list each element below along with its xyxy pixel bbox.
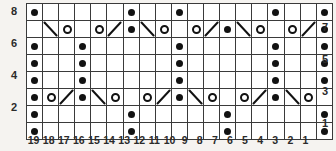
stitch-cell-r7-c17[interactable] (59, 21, 75, 38)
stitch-cell-r8-c11[interactable] (155, 4, 171, 21)
stitch-cell-r4-c7[interactable] (220, 72, 236, 89)
stitch-cell-r2-c16[interactable] (75, 106, 91, 123)
stitch-cell-r2-c18[interactable] (43, 106, 59, 123)
stitch-cell-r4-c4[interactable] (268, 72, 284, 89)
stitch-cell-r7-c14[interactable] (107, 21, 123, 38)
stitch-cell-r3-c19[interactable] (27, 89, 43, 106)
stitch-cell-r6-c1[interactable] (316, 38, 332, 55)
stitch-cell-r3-c11[interactable] (155, 89, 171, 106)
stitch-cell-r7-c6[interactable] (236, 21, 252, 38)
stitch-cell-r2-c4[interactable] (268, 106, 284, 123)
stitch-cell-r5-c5[interactable] (252, 55, 268, 72)
stitch-cell-r4-c11[interactable] (155, 72, 171, 89)
stitch-cell-r7-c15[interactable] (91, 21, 107, 38)
stitch-cell-r6-c10[interactable] (171, 38, 187, 55)
stitch-cell-r7-c18[interactable] (43, 21, 59, 38)
stitch-cell-r8-c15[interactable] (91, 4, 107, 21)
stitch-cell-r6-c12[interactable] (139, 38, 155, 55)
stitch-cell-r2-c19[interactable] (27, 106, 43, 123)
stitch-cell-r8-c4[interactable] (268, 4, 284, 21)
stitch-cell-r8-c2[interactable] (300, 4, 316, 21)
stitch-cell-r4-c14[interactable] (107, 72, 123, 89)
stitch-cell-r6-c14[interactable] (107, 38, 123, 55)
stitch-cell-r3-c10[interactable] (171, 89, 187, 106)
stitch-cell-r4-c15[interactable] (91, 72, 107, 89)
stitch-cell-r3-c13[interactable] (123, 89, 139, 106)
stitch-cell-r3-c8[interactable] (204, 89, 220, 106)
stitch-cell-r8-c12[interactable] (139, 4, 155, 21)
stitch-cell-r8-c13[interactable] (123, 4, 139, 21)
stitch-cell-r5-c10[interactable] (171, 55, 187, 72)
stitch-cell-r6-c7[interactable] (220, 38, 236, 55)
stitch-cell-r8-c17[interactable] (59, 4, 75, 21)
stitch-cell-r7-c13[interactable] (123, 21, 139, 38)
stitch-cell-r7-c19[interactable] (27, 21, 43, 38)
stitch-cell-r6-c15[interactable] (91, 38, 107, 55)
stitch-cell-r8-c8[interactable] (204, 4, 220, 21)
stitch-cell-r5-c3[interactable] (284, 55, 300, 72)
stitch-cell-r8-c9[interactable] (187, 4, 203, 21)
stitch-cell-r3-c5[interactable] (252, 89, 268, 106)
stitch-cell-r3-c17[interactable] (59, 89, 75, 106)
stitch-cell-r8-c16[interactable] (75, 4, 91, 21)
stitch-cell-r4-c13[interactable] (123, 72, 139, 89)
stitch-cell-r5-c6[interactable] (236, 55, 252, 72)
stitch-cell-r8-c6[interactable] (236, 4, 252, 21)
stitch-cell-r7-c5[interactable] (252, 21, 268, 38)
stitch-cell-r6-c6[interactable] (236, 38, 252, 55)
stitch-cell-r7-c8[interactable] (204, 21, 220, 38)
stitch-cell-r4-c19[interactable] (27, 72, 43, 89)
stitch-cell-r3-c2[interactable] (300, 89, 316, 106)
stitch-cell-r5-c18[interactable] (43, 55, 59, 72)
stitch-cell-r3-c12[interactable] (139, 89, 155, 106)
stitch-cell-r6-c19[interactable] (27, 38, 43, 55)
stitch-cell-r4-c8[interactable] (204, 72, 220, 89)
stitch-cell-r2-c8[interactable] (204, 106, 220, 123)
stitch-cell-r2-c15[interactable] (91, 106, 107, 123)
stitch-cell-r7-c7[interactable] (220, 21, 236, 38)
stitch-cell-r4-c10[interactable] (171, 72, 187, 89)
stitch-cell-r4-c12[interactable] (139, 72, 155, 89)
stitch-cell-r2-c10[interactable] (171, 106, 187, 123)
stitch-cell-r5-c7[interactable] (220, 55, 236, 72)
stitch-cell-r2-c9[interactable] (187, 106, 203, 123)
stitch-cell-r7-c12[interactable] (139, 21, 155, 38)
stitch-cell-r4-c5[interactable] (252, 72, 268, 89)
stitch-cell-r5-c15[interactable] (91, 55, 107, 72)
stitch-cell-r7-c3[interactable] (284, 21, 300, 38)
stitch-cell-r3-c15[interactable] (91, 89, 107, 106)
stitch-cell-r7-c10[interactable] (171, 21, 187, 38)
stitch-cell-r3-c18[interactable] (43, 89, 59, 106)
stitch-cell-r5-c9[interactable] (187, 55, 203, 72)
stitch-cell-r7-c2[interactable] (300, 21, 316, 38)
stitch-cell-r6-c18[interactable] (43, 38, 59, 55)
stitch-cell-r3-c14[interactable] (107, 89, 123, 106)
stitch-cell-r2-c5[interactable] (252, 106, 268, 123)
stitch-cell-r2-c7[interactable] (220, 106, 236, 123)
stitch-cell-r3-c7[interactable] (220, 89, 236, 106)
stitch-cell-r5-c14[interactable] (107, 55, 123, 72)
stitch-cell-r5-c4[interactable] (268, 55, 284, 72)
stitch-cell-r3-c6[interactable] (236, 89, 252, 106)
stitch-cell-r2-c6[interactable] (236, 106, 252, 123)
stitch-cell-r3-c3[interactable] (284, 89, 300, 106)
stitch-cell-r2-c17[interactable] (59, 106, 75, 123)
stitch-cell-r4-c9[interactable] (187, 72, 203, 89)
stitch-cell-r7-c9[interactable] (187, 21, 203, 38)
stitch-cell-r5-c13[interactable] (123, 55, 139, 72)
stitch-cell-r8-c5[interactable] (252, 4, 268, 21)
stitch-cell-r6-c3[interactable] (284, 38, 300, 55)
stitch-cell-r5-c19[interactable] (27, 55, 43, 72)
stitch-cell-r5-c2[interactable] (300, 55, 316, 72)
stitch-cell-r6-c9[interactable] (187, 38, 203, 55)
stitch-cell-r6-c5[interactable] (252, 38, 268, 55)
stitch-cell-r7-c11[interactable] (155, 21, 171, 38)
stitch-cell-r4-c3[interactable] (284, 72, 300, 89)
stitch-cell-r6-c13[interactable] (123, 38, 139, 55)
stitch-cell-r6-c2[interactable] (300, 38, 316, 55)
stitch-cell-r4-c6[interactable] (236, 72, 252, 89)
stitch-cell-r5-c12[interactable] (139, 55, 155, 72)
stitch-cell-r4-c16[interactable] (75, 72, 91, 89)
stitch-cell-r2-c13[interactable] (123, 106, 139, 123)
stitch-cell-r6-c4[interactable] (268, 38, 284, 55)
